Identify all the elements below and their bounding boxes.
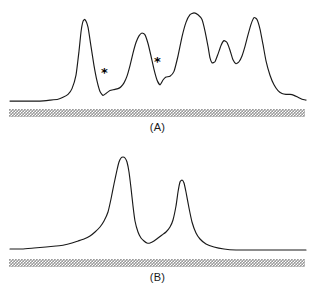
- panel-b-label: (B): [0, 271, 315, 283]
- panel-b-trace: [0, 140, 315, 260]
- panel-b-scale-bar: [9, 259, 305, 267]
- panel-a: * * (A): [0, 0, 315, 140]
- panel-b-trace-line: [10, 157, 306, 250]
- two-panel-spectrum-figure: * * (A) (B): [0, 0, 315, 301]
- asterisk-marker-1: *: [101, 66, 108, 79]
- panel-a-scale-bar: [9, 109, 305, 117]
- panel-b: (B): [0, 140, 315, 301]
- asterisk-marker-2: *: [154, 55, 161, 68]
- panel-a-label: (A): [0, 121, 315, 133]
